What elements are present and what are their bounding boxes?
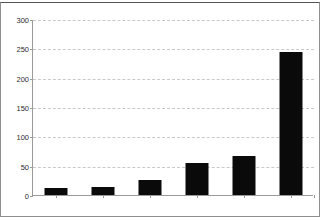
bar bbox=[139, 180, 162, 195]
bar bbox=[185, 163, 208, 195]
x-tick-mark bbox=[150, 195, 151, 198]
bar-slot bbox=[33, 19, 80, 195]
bar-slot bbox=[267, 19, 314, 195]
plot-area: 050100150200250300 1980-841985-891990-94… bbox=[32, 20, 313, 196]
chart-screenshot: 050100150200250300 1980-841985-891990-94… bbox=[0, 0, 321, 219]
bar-slot bbox=[80, 19, 127, 195]
y-tick-label: 200 bbox=[16, 74, 29, 83]
x-tick-mark bbox=[244, 195, 245, 198]
y-tick-mark bbox=[30, 196, 33, 197]
y-tick-label: 150 bbox=[16, 104, 29, 113]
y-tick-label: 300 bbox=[16, 16, 29, 25]
bar-slot bbox=[220, 19, 267, 195]
bar-slot bbox=[127, 19, 174, 195]
chart-title bbox=[0, 0, 321, 2]
y-tick-label: 100 bbox=[16, 133, 29, 142]
bar bbox=[232, 156, 255, 195]
y-tick-label: 250 bbox=[16, 45, 29, 54]
x-tick-mark bbox=[197, 195, 198, 198]
bar bbox=[92, 187, 115, 195]
x-axis-end-tick bbox=[314, 195, 315, 198]
bar-series bbox=[33, 19, 314, 195]
bar-slot bbox=[174, 19, 221, 195]
bar bbox=[45, 188, 68, 195]
x-tick-mark bbox=[103, 195, 104, 198]
x-tick-mark bbox=[56, 195, 57, 198]
y-tick-label: 50 bbox=[21, 162, 29, 171]
bar bbox=[279, 52, 302, 195]
x-tick-mark bbox=[291, 195, 292, 198]
y-tick-label: 0 bbox=[25, 192, 29, 201]
